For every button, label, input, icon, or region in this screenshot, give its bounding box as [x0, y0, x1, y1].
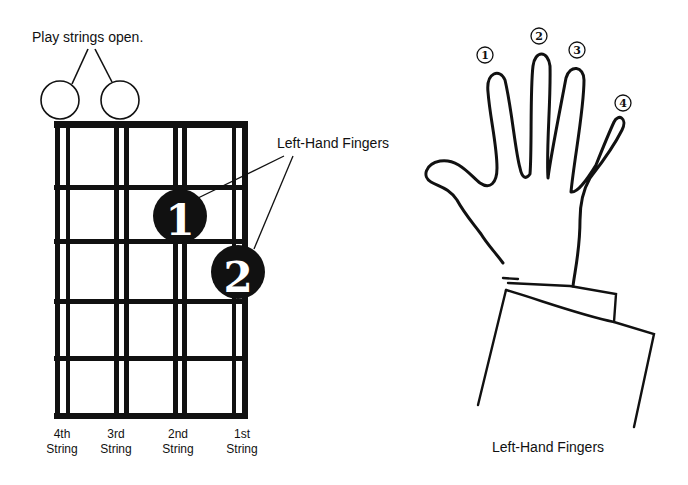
open-circle-4th-string [41, 81, 79, 119]
sleeve-drawing [478, 278, 654, 427]
string-label-3rd: 3rd String [91, 427, 141, 457]
string-label-1st: 1st String [217, 427, 267, 457]
chord-diagram-graphic: 1 2 1 2 3 4 [0, 0, 688, 485]
pointer-line [72, 49, 88, 84]
svg-text:3: 3 [573, 44, 581, 57]
hand-caption: Left-Hand Fingers [492, 440, 604, 454]
svg-text:1: 1 [481, 49, 489, 62]
string-label-4th: 4th String [37, 427, 87, 457]
svg-text:2: 2 [535, 30, 543, 43]
open-circle-3rd-string [101, 81, 139, 119]
open-strings-label: Play strings open. [32, 30, 143, 44]
pointer-line [95, 49, 112, 82]
string-label-2nd: 2nd String [153, 427, 203, 457]
open-string-markers [41, 49, 139, 119]
hand-drawing [426, 54, 624, 286]
finger-marker-2: 2 [211, 245, 265, 302]
left-hand-fingers-label: Left-Hand Fingers [277, 136, 389, 150]
svg-text:4: 4 [619, 97, 627, 110]
svg-text:1: 1 [165, 196, 194, 245]
finger-marker-1: 1 [153, 189, 207, 245]
hand-finger-numbers: 1 2 3 4 [477, 28, 631, 111]
svg-text:2: 2 [223, 253, 252, 302]
